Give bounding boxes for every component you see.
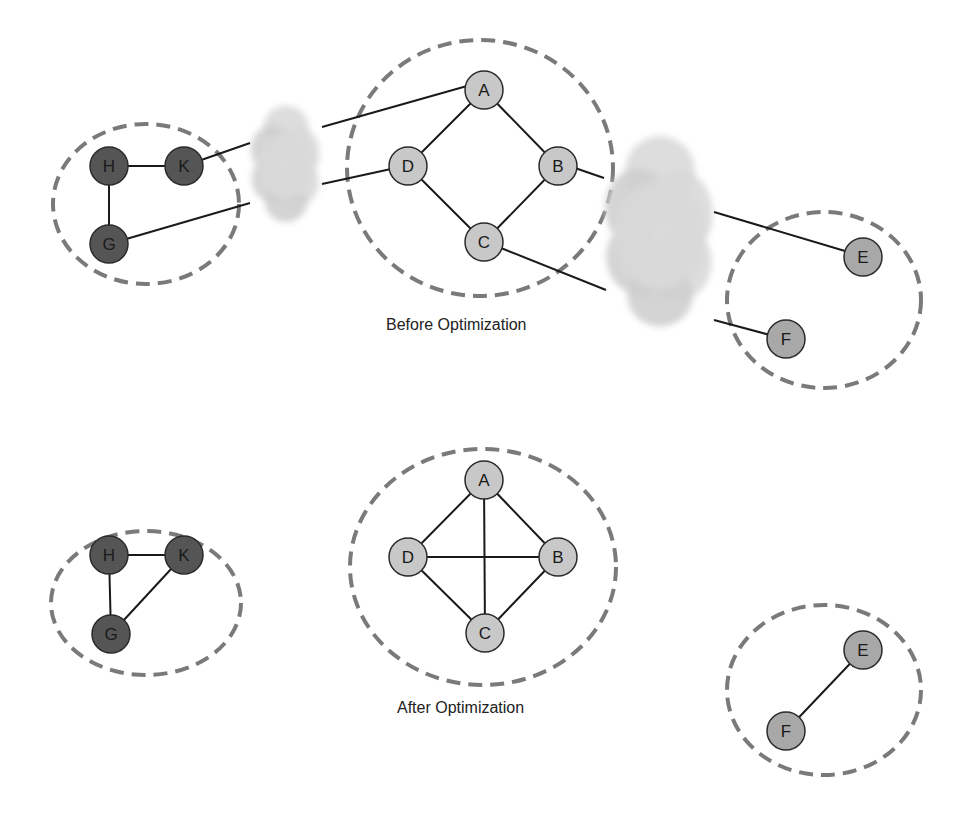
before-cloud-right-icon: [605, 136, 713, 327]
node-label: K: [178, 546, 190, 565]
before-optimization-caption: Before Optimization: [386, 316, 527, 334]
before-edge: [714, 320, 770, 335]
cloud-layer: [251, 106, 713, 327]
node-label: D: [402, 548, 414, 567]
before-cloud-left-icon: [251, 106, 320, 223]
before-node-e: E: [844, 238, 882, 276]
node-label: H: [103, 546, 115, 565]
before-cluster-hkg: [53, 124, 239, 284]
before-node-f: F: [767, 320, 805, 358]
node-label: E: [857, 641, 868, 660]
before-cluster-ef: [727, 212, 921, 388]
before-node-a: A: [465, 71, 503, 109]
before-edge: [501, 248, 606, 290]
after-node-g: G: [92, 615, 130, 653]
after-optimization-caption: After Optimization: [397, 699, 524, 717]
node-label: G: [102, 235, 115, 254]
node-label: B: [552, 157, 563, 176]
before-node-k: K: [165, 147, 203, 185]
after-node-k: K: [165, 536, 203, 574]
node-label: K: [178, 157, 190, 176]
before-edge: [714, 212, 845, 251]
before-node-b: B: [539, 147, 577, 185]
before-node-h: H: [90, 147, 128, 185]
network-diagram: HKGADBCEFHKGADBCEF: [0, 0, 972, 821]
node-layer: HKGADBCEFHKGADBCEF: [90, 71, 882, 750]
node-label: C: [479, 624, 491, 643]
node-label: F: [781, 330, 791, 349]
after-node-f: F: [767, 712, 805, 750]
node-label: F: [781, 722, 791, 741]
node-label: G: [104, 625, 117, 644]
before-edge: [109, 203, 250, 244]
before-edge: [575, 168, 604, 178]
node-label: A: [478, 81, 490, 100]
after-node-h: H: [90, 536, 128, 574]
after-node-d: D: [389, 538, 427, 576]
node-label: C: [478, 233, 490, 252]
node-label: A: [478, 471, 490, 490]
after-node-e: E: [844, 631, 882, 669]
node-label: B: [552, 548, 563, 567]
before-node-d: D: [389, 147, 427, 185]
after-cluster-hkg: [51, 531, 241, 675]
before-node-c: C: [465, 223, 503, 261]
before-edge: [322, 86, 467, 127]
node-label: H: [103, 157, 115, 176]
node-label: E: [857, 248, 868, 267]
after-node-b: B: [539, 538, 577, 576]
before-edge: [322, 169, 391, 184]
after-node-a: A: [465, 461, 503, 499]
after-node-c: C: [466, 614, 504, 652]
node-label: D: [402, 157, 414, 176]
before-node-g: G: [90, 225, 128, 263]
